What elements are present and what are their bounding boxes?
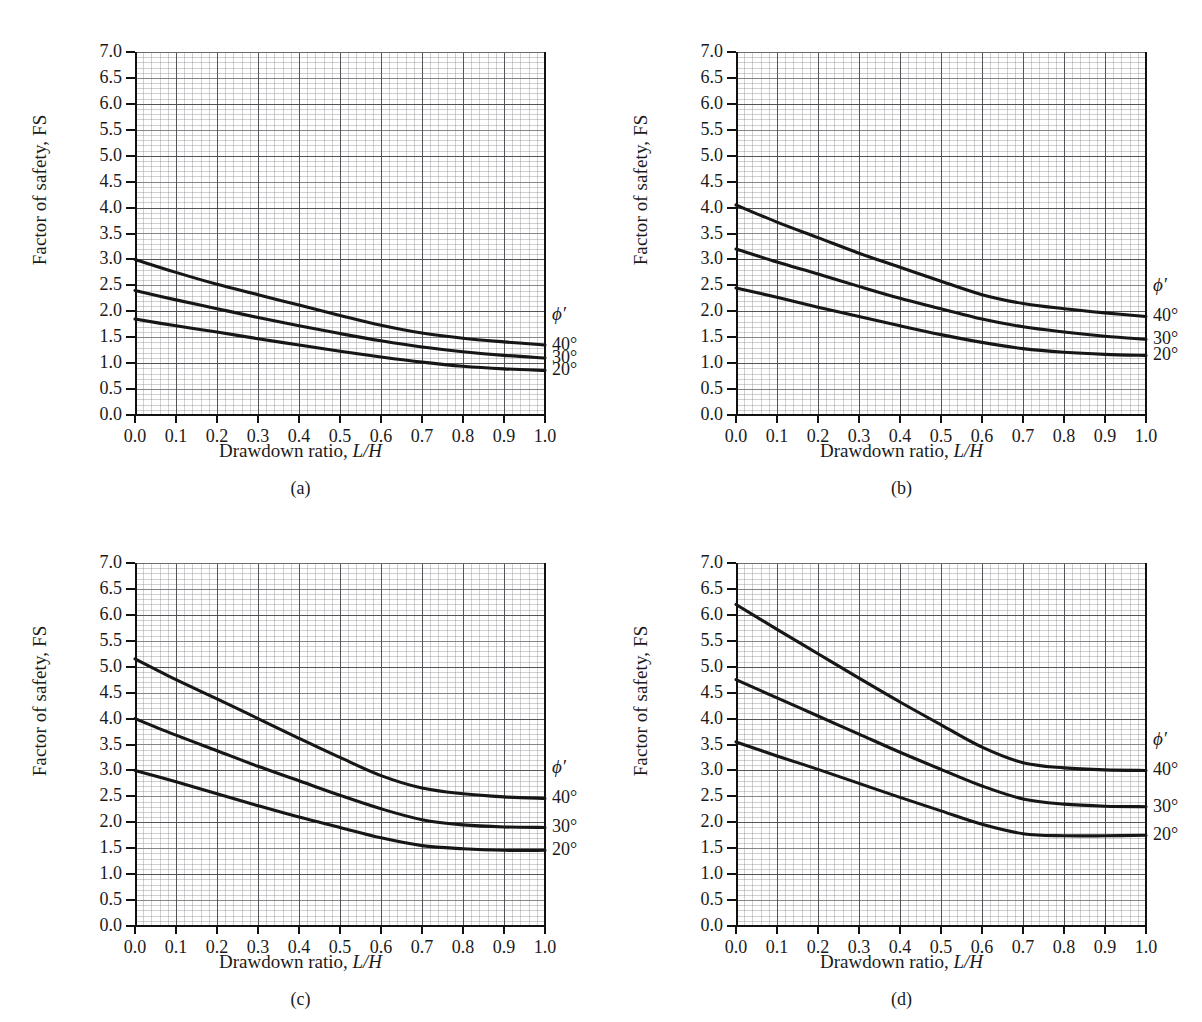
x-tick-mark: [216, 416, 218, 423]
panel-caption-d: (d): [601, 989, 1202, 1010]
legend-symbol-phi-c: ϕ′: [552, 756, 566, 778]
x-tick-mark: [175, 927, 177, 934]
x-tick-mark: [503, 927, 505, 934]
panel-c: Factor of safety, FS 0.00.51.01.52.02.53…: [0, 511, 601, 1022]
legend-entry-d-20: 20°: [1153, 824, 1178, 845]
x-tick-mark: [339, 927, 341, 934]
x-tick-mark: [216, 927, 218, 934]
x-ticks-c: 0.00.10.20.30.40.50.60.70.80.91.0: [0, 511, 601, 971]
x-axis-label-italic: L/H: [352, 951, 382, 972]
x-tick-mark: [462, 416, 464, 423]
panel-caption-b: (b): [601, 478, 1202, 499]
legend-entry-c-40: 40°: [552, 787, 577, 808]
x-tick-mark: [981, 416, 983, 423]
x-ticks-d: 0.00.10.20.30.40.50.60.70.80.91.0: [601, 511, 1202, 971]
x-axis-label-text: Drawdown ratio,: [820, 440, 954, 461]
legend-entry-b-40: 40°: [1153, 305, 1178, 326]
x-tick-mark: [298, 416, 300, 423]
panel-d: Factor of safety, FS 0.00.51.01.52.02.53…: [601, 511, 1202, 1022]
x-tick-mark: [858, 927, 860, 934]
x-tick-mark: [380, 416, 382, 423]
x-tick-mark: [257, 416, 259, 423]
panel-caption-c: (c): [0, 989, 601, 1010]
x-axis-label-d: Drawdown ratio, L/H: [601, 951, 1202, 973]
x-tick-mark: [1063, 416, 1065, 423]
x-tick-mark: [134, 416, 136, 423]
x-tick-mark: [858, 416, 860, 423]
panel-a: Factor of safety, FS 0.00.51.01.52.02.53…: [0, 0, 601, 511]
x-axis-label-italic: L/H: [953, 440, 983, 461]
x-tick-mark: [134, 927, 136, 934]
x-tick-mark: [544, 927, 546, 934]
x-tick-mark: [1063, 927, 1065, 934]
x-axis-label-text: Drawdown ratio,: [219, 440, 353, 461]
x-tick-mark: [899, 927, 901, 934]
x-tick-mark: [1145, 927, 1147, 934]
x-tick-mark: [776, 416, 778, 423]
legend-symbol-phi-a: ϕ′: [552, 303, 566, 325]
legend-entry-c-30: 30°: [552, 816, 577, 837]
legend-symbol-phi-d: ϕ′: [1153, 728, 1167, 750]
x-tick-mark: [940, 927, 942, 934]
x-axis-label-text: Drawdown ratio,: [219, 951, 353, 972]
x-tick-mark: [298, 927, 300, 934]
x-tick-mark: [339, 416, 341, 423]
panel-caption-a: (a): [0, 478, 601, 499]
x-tick-mark: [175, 416, 177, 423]
panel-b: Factor of safety, FS 0.00.51.01.52.02.53…: [601, 0, 1202, 511]
x-tick-mark: [503, 416, 505, 423]
x-tick-mark: [421, 416, 423, 423]
x-tick-mark: [735, 416, 737, 423]
x-axis-label-italic: L/H: [953, 951, 983, 972]
legend-entry-c-20: 20°: [552, 839, 577, 860]
x-tick-mark: [257, 927, 259, 934]
x-tick-mark: [380, 927, 382, 934]
legend-entry-b-20: 20°: [1153, 344, 1178, 365]
legend-entry-a-20: 20°: [552, 359, 577, 380]
x-axis-label-a: Drawdown ratio, L/H: [0, 440, 601, 462]
x-tick-mark: [817, 416, 819, 423]
x-ticks-b: 0.00.10.20.30.40.50.60.70.80.91.0: [601, 0, 1202, 460]
x-tick-mark: [1104, 927, 1106, 934]
x-tick-mark: [817, 927, 819, 934]
x-tick-mark: [1022, 927, 1024, 934]
legend-entry-d-30: 30°: [1153, 796, 1178, 817]
x-tick-mark: [1104, 416, 1106, 423]
x-tick-mark: [940, 416, 942, 423]
x-tick-mark: [899, 416, 901, 423]
x-tick-mark: [544, 416, 546, 423]
x-tick-mark: [421, 927, 423, 934]
x-ticks-a: 0.00.10.20.30.40.50.60.70.80.91.0: [0, 0, 601, 460]
x-axis-label-b: Drawdown ratio, L/H: [601, 440, 1202, 462]
x-axis-label-italic: L/H: [352, 440, 382, 461]
x-axis-label-c: Drawdown ratio, L/H: [0, 951, 601, 973]
x-tick-mark: [981, 927, 983, 934]
x-tick-mark: [776, 927, 778, 934]
x-axis-label-text: Drawdown ratio,: [820, 951, 954, 972]
x-tick-mark: [735, 927, 737, 934]
figure-grid: Factor of safety, FS 0.00.51.01.52.02.53…: [0, 0, 1202, 1022]
x-tick-mark: [1145, 416, 1147, 423]
legend-symbol-phi-b: ϕ′: [1153, 274, 1167, 296]
x-tick-mark: [1022, 416, 1024, 423]
legend-entry-d-40: 40°: [1153, 759, 1178, 780]
x-tick-mark: [462, 927, 464, 934]
